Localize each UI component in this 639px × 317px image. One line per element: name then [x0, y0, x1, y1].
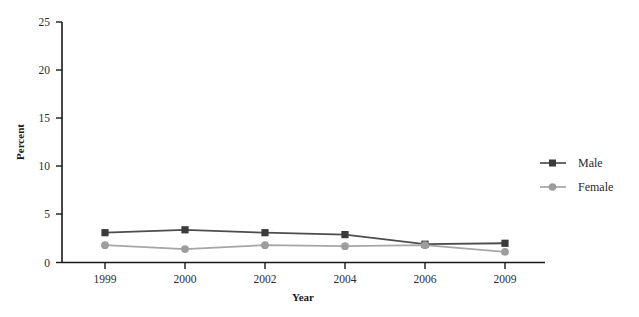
data-point-female[interactable]: [101, 241, 109, 249]
data-point-female[interactable]: [181, 245, 189, 253]
y-tick-label: 15: [39, 112, 51, 124]
data-point-male[interactable]: [261, 229, 268, 236]
y-tick-label: 5: [44, 208, 50, 220]
data-point-female[interactable]: [421, 241, 429, 249]
x-tick-label: 2000: [174, 273, 197, 285]
x-tick-label: 2002: [254, 273, 277, 285]
legend-label-male: Male: [578, 156, 603, 170]
data-point-male[interactable]: [181, 226, 188, 233]
y-tick-label: 25: [39, 16, 51, 28]
x-tick-label: 2009: [494, 273, 517, 285]
data-point-male[interactable]: [501, 240, 508, 247]
data-point-female[interactable]: [501, 248, 509, 256]
x-tick-label: 2006: [414, 273, 437, 285]
y-tick-label: 0: [44, 257, 50, 269]
x-axis-title: Year: [292, 291, 314, 303]
x-tick-label: 2004: [334, 273, 357, 285]
data-point-male[interactable]: [101, 229, 108, 236]
line-chart-figure: 25 20 15 10 5 0 Percent 1999 2000 2002 2…: [0, 0, 639, 317]
x-tick-label: 1999: [94, 273, 117, 285]
data-point-female[interactable]: [261, 241, 269, 249]
data-point-male[interactable]: [341, 231, 348, 238]
y-axis-title: Percent: [14, 124, 26, 160]
data-point-female[interactable]: [341, 242, 349, 250]
y-tick-label: 20: [39, 64, 51, 76]
legend-label-female: Female: [578, 180, 613, 194]
legend-marker-square-icon: [549, 160, 556, 167]
chart-background: [0, 0, 639, 317]
legend-marker-circle-icon: [549, 183, 557, 191]
y-tick-label: 10: [39, 160, 51, 172]
